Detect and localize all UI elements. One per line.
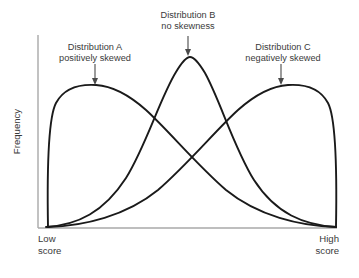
annotation-distribution-b: Distribution B no skewness <box>141 10 235 33</box>
x-axis-low-score-line2: score <box>38 245 61 257</box>
curve-distribution-b <box>46 57 336 227</box>
x-axis-high-score-line2: score <box>316 245 339 257</box>
annotation-distribution-b-line2: no skewness <box>141 21 235 32</box>
x-axis-high-score-line1: High <box>316 233 339 245</box>
x-axis-low-score-label: Low score <box>38 233 61 256</box>
annotation-distribution-c: Distribution C negatively skewed <box>233 42 333 65</box>
arrow-distribution-b-icon <box>185 36 191 56</box>
curve-distribution-c <box>48 85 336 227</box>
curves-group <box>46 57 336 227</box>
skewness-distribution-chart: Distribution A positively skewed Distrib… <box>0 0 359 278</box>
annotation-distribution-c-line1: Distribution C <box>233 42 333 53</box>
y-axis-label: Frequency <box>11 95 22 169</box>
annotation-distribution-a: Distribution A positively skewed <box>48 42 142 65</box>
annotation-distribution-a-line2: positively skewed <box>48 53 142 64</box>
annotation-distribution-b-line1: Distribution B <box>141 10 235 21</box>
arrow-distribution-c-icon <box>278 64 284 85</box>
x-axis-high-score-label: High score <box>316 233 339 256</box>
annotation-distribution-c-line2: negatively skewed <box>233 53 333 64</box>
annotation-distribution-a-line1: Distribution A <box>48 42 142 53</box>
arrow-distribution-a-icon <box>92 64 98 85</box>
x-axis-low-score-line1: Low <box>38 233 61 245</box>
